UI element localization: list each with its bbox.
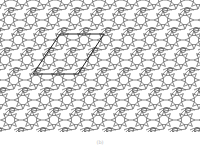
interlace-pattern (0, 0, 200, 150)
tiling-pattern-figure (0, 0, 200, 150)
figure-caption: (b) (0, 139, 200, 145)
